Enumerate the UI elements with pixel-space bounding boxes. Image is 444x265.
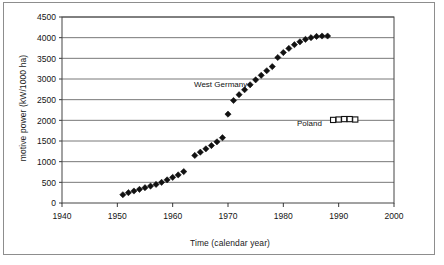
data-point-diamond: [280, 49, 286, 55]
data-point-diamond: [208, 142, 214, 148]
data-point-diamond: [219, 135, 225, 141]
data-point-diamond: [214, 139, 220, 145]
data-point-diamond: [170, 174, 176, 180]
data-point-square: [347, 116, 352, 121]
x-axis-title: Time (calendar year): [150, 238, 310, 248]
series-annotation-west-germany: West Germany: [194, 80, 247, 89]
x-axis-tick-label: 1970: [219, 211, 238, 221]
scatter-chart: 0500100015002000250030003500400045001940…: [0, 0, 444, 265]
y-axis-tick-label: 2000: [37, 116, 56, 126]
x-axis-tick-label: 1980: [274, 211, 293, 221]
data-point-diamond: [291, 42, 297, 48]
data-point-square: [353, 117, 358, 122]
data-point-diamond: [197, 149, 203, 155]
data-point-diamond: [203, 146, 209, 152]
series-poland: [331, 116, 358, 122]
data-point-diamond: [142, 185, 148, 191]
y-axis-tick-label: 3000: [37, 74, 56, 84]
x-axis-tick-label: 1950: [108, 211, 127, 221]
data-point-square: [342, 116, 347, 121]
data-point-diamond: [286, 45, 292, 51]
y-axis-tick-label: 1000: [37, 157, 56, 167]
series-west-germany: [120, 33, 331, 198]
chart-figure: 0500100015002000250030003500400045001940…: [0, 0, 444, 265]
y-axis-title: motive power (kW/1000 ha): [18, 33, 28, 183]
plot-area-border: [62, 17, 394, 203]
data-point-diamond: [297, 39, 303, 45]
data-point-square: [331, 117, 336, 122]
data-point-diamond: [147, 183, 153, 189]
data-point-diamond: [258, 72, 264, 78]
data-point-diamond: [131, 188, 137, 194]
y-axis-tick-label: 1500: [37, 136, 56, 146]
y-axis-tick-label: 2500: [37, 95, 56, 105]
x-axis-tick-label: 1960: [163, 211, 182, 221]
y-axis-tick-label: 0: [51, 198, 56, 208]
data-point-diamond: [236, 92, 242, 98]
y-axis-tick-label: 4000: [37, 33, 56, 43]
data-point-diamond: [192, 152, 198, 158]
data-point-diamond: [230, 97, 236, 103]
data-point-diamond: [253, 77, 259, 83]
data-point-diamond: [313, 33, 319, 39]
data-point-diamond: [181, 168, 187, 174]
data-point-diamond: [264, 68, 270, 74]
x-axis-tick-label: 2000: [385, 211, 404, 221]
y-axis-tick-label: 500: [42, 178, 56, 188]
x-axis-tick-label: 1940: [53, 211, 72, 221]
data-point-diamond: [325, 33, 331, 39]
series-annotation-poland: Poland: [297, 119, 322, 128]
data-point-diamond: [308, 35, 314, 41]
data-point-diamond: [136, 186, 142, 192]
y-axis-tick-label: 4500: [37, 12, 56, 22]
data-point-diamond: [269, 64, 275, 70]
data-point-diamond: [175, 172, 181, 178]
data-point-diamond: [247, 82, 253, 88]
data-point-diamond: [225, 111, 231, 117]
data-point-square: [336, 117, 341, 122]
x-axis-tick-label: 1990: [329, 211, 348, 221]
data-point-diamond: [302, 36, 308, 42]
y-axis-tick-label: 3500: [37, 54, 56, 64]
data-point-diamond: [275, 54, 281, 60]
